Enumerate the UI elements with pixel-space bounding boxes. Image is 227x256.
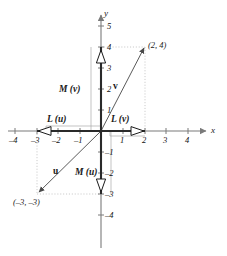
x-tick-label--1: –1	[74, 136, 83, 145]
projection-label-Mv: M (v)	[59, 85, 80, 95]
y-tick-label-4: 4	[107, 43, 111, 52]
x-tick-label-1: 1	[120, 136, 124, 145]
x-tick-label-2: 2	[142, 136, 146, 145]
y-tick-label-3: 3	[107, 64, 111, 73]
projection-Mv-arrow	[96, 47, 105, 131]
point-label-u: (–3, –3)	[13, 198, 40, 207]
x-axis-label: x	[211, 126, 215, 135]
x-tick-label-4: 4	[185, 136, 189, 145]
x-tick-label-3: 3	[163, 136, 167, 145]
x-tick-label--3: –3	[31, 136, 40, 145]
x-tick-label--4: –4	[9, 136, 18, 145]
y-tick-label--2: –2	[105, 169, 114, 178]
projection-label-Lu: L (u)	[47, 115, 66, 125]
projection-label-Mu: M (u)	[75, 168, 97, 178]
vector-label-u: u	[53, 167, 58, 177]
vector-label-v: v	[113, 82, 118, 92]
y-axis-label: y	[104, 9, 108, 18]
projection-label-Lv: L (v)	[111, 115, 129, 125]
y-tick-label--4: –4	[105, 211, 114, 220]
y-tick-label-5: 5	[107, 22, 111, 31]
projection-Mu-arrow	[96, 131, 105, 194]
vector-u-arrow	[39, 131, 101, 192]
y-tick-label-2: 2	[107, 85, 111, 94]
x-tick-label--2: –2	[52, 136, 61, 145]
point-label-v: (2, 4)	[148, 41, 166, 50]
y-tick-label--3: –3	[105, 190, 114, 199]
vector-projection-figure: x y –4 –3 –2 –1 1 2 3 4 5 4 3 2 1 –1 –2 …	[0, 0, 227, 256]
projection-Lu-arrow	[37, 127, 101, 136]
y-tick-label--1: –1	[105, 148, 114, 157]
